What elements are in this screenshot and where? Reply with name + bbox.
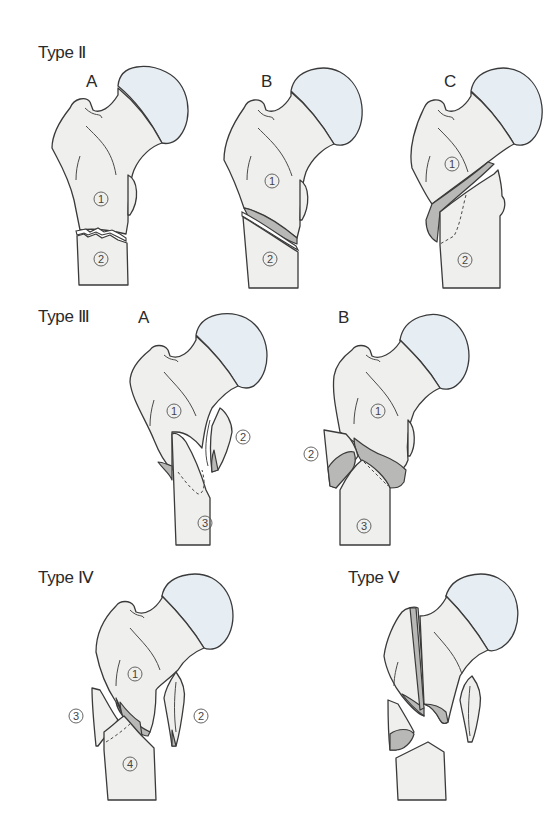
diagram-type-5 [0, 0, 558, 825]
distal-shaft [396, 742, 446, 800]
fragment-small [460, 676, 481, 742]
